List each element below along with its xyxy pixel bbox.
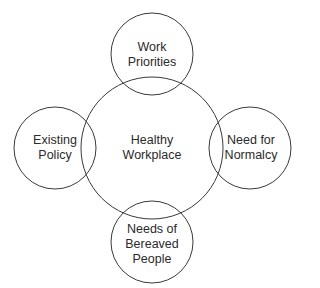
needs-of-bereaved-label: Needs of Bereaved People: [125, 222, 179, 267]
existing-policy-label: Existing Policy: [33, 133, 77, 163]
center-label: Healthy Workplace: [123, 133, 182, 163]
need-for-normalcy-label: Need for Normalcy: [225, 133, 278, 163]
work-priorities-label: Work Priorities: [128, 40, 177, 70]
